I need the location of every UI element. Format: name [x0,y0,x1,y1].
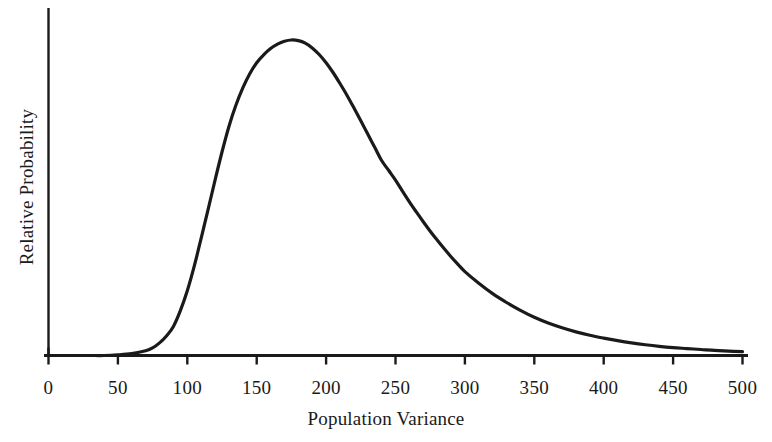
x-tick-label: 450 [658,378,687,397]
distribution-curve [49,40,743,356]
x-tick-label: 200 [311,378,340,397]
x-tick-label: 100 [173,378,202,397]
x-tick-label: 0 [44,378,54,397]
x-tick-label: 500 [728,378,757,397]
x-tick-label: 400 [589,378,618,397]
chart-plot-area [0,0,772,442]
y-axis-title: Relative Probability [16,67,38,307]
x-tick-label: 50 [108,378,128,397]
x-axis-title: Population Variance [0,408,772,430]
chart-container: 050100150200250300350400450500 Populatio… [0,0,772,442]
x-tick-label: 150 [242,378,271,397]
x-tick-label: 350 [520,378,549,397]
x-tick-label: 300 [450,378,479,397]
x-tick-label: 250 [381,378,410,397]
